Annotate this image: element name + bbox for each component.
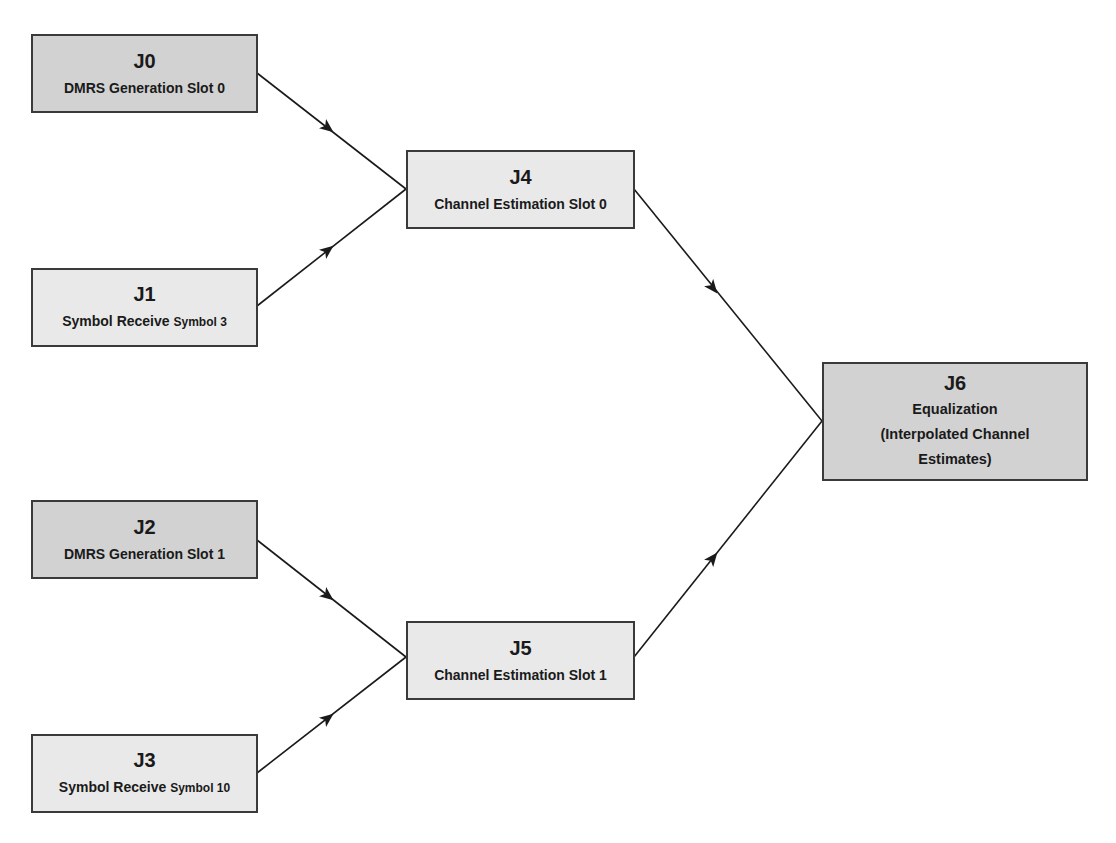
node-label-line-1: Equalization <box>906 397 1003 422</box>
edge-j0-j4 <box>257 73 406 189</box>
node-j5[interactable]: J5 Channel Estimation Slot 1 <box>406 621 635 700</box>
node-id: J2 <box>133 515 155 539</box>
node-j0[interactable]: J0 DMRS Generation Slot 0 <box>31 34 258 113</box>
node-j3[interactable]: J3 Symbol Receive Symbol 10 <box>31 734 258 813</box>
edge-j5-j6 <box>634 421 822 657</box>
node-id: J0 <box>133 49 155 73</box>
node-id: J4 <box>509 165 531 189</box>
node-label: DMRS Generation Slot 0 <box>58 77 231 99</box>
node-id: J3 <box>133 748 155 772</box>
node-j1[interactable]: J1 Symbol Receive Symbol 3 <box>31 268 258 347</box>
diagram-canvas: J0 DMRS Generation Slot 0 J1 Symbol Rece… <box>0 0 1116 843</box>
edge-j4-j6 <box>634 189 822 421</box>
edge-j1-j4 <box>257 189 406 306</box>
node-label: Symbol Receive Symbol 10 <box>53 776 236 799</box>
node-label-line-3: Estimates) <box>912 447 997 472</box>
node-id: J1 <box>133 282 155 306</box>
edge-j3-j5 <box>257 657 406 773</box>
edge-j2-j5 <box>257 540 406 657</box>
node-j2[interactable]: J2 DMRS Generation Slot 1 <box>31 500 258 579</box>
node-label: Channel Estimation Slot 0 <box>428 193 613 215</box>
node-id: J5 <box>509 636 531 660</box>
node-label: DMRS Generation Slot 1 <box>58 543 231 565</box>
node-label-line-2: (Interpolated Channel <box>874 422 1035 447</box>
node-j4[interactable]: J4 Channel Estimation Slot 0 <box>406 150 635 229</box>
node-id: J6 <box>944 371 966 395</box>
node-label: Symbol Receive Symbol 3 <box>56 310 233 333</box>
node-label: Channel Estimation Slot 1 <box>428 664 613 686</box>
node-j6[interactable]: J6 Equalization (Interpolated Channel Es… <box>822 362 1088 481</box>
